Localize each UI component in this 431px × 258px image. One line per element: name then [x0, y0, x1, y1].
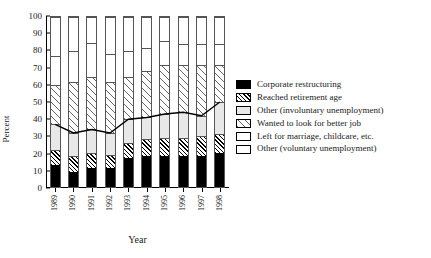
y-axis-tick-label: 90 — [33, 29, 46, 38]
bar-segment — [160, 156, 169, 187]
bar-slot: 1992 — [101, 16, 119, 188]
bar-group: 1989199019911992199319941995199619971998 — [46, 16, 229, 188]
legend-swatch-icon — [236, 132, 251, 141]
x-axis-tick-mark — [183, 188, 184, 192]
stacked-bar[interactable] — [86, 16, 97, 188]
bar-segment — [124, 158, 133, 187]
bar-segment — [69, 156, 78, 171]
y-axis-tick-label: 80 — [33, 46, 46, 55]
stacked-bar[interactable] — [159, 16, 170, 188]
bar-segment — [179, 17, 188, 44]
y-axis-tick-mark — [46, 102, 50, 103]
bar-segment — [124, 17, 133, 51]
bar-segment — [142, 139, 151, 156]
stacked-bar[interactable] — [68, 16, 79, 188]
x-axis-label: Year — [46, 234, 229, 245]
x-axis-tick-mark — [202, 188, 203, 192]
y-axis-tick-label: 60 — [33, 80, 46, 89]
y-axis-tick-mark — [46, 170, 50, 171]
bar-segment — [197, 156, 206, 187]
y-axis-tick-mark — [46, 153, 50, 154]
y-axis-tick-mark — [46, 50, 50, 51]
legend-item[interactable]: Left for marriage, childcare, etc. — [236, 132, 428, 142]
x-axis-tick-mark — [147, 188, 148, 192]
bar-segment — [124, 143, 133, 158]
bar-segment — [215, 102, 224, 134]
legend-swatch-icon — [236, 80, 251, 89]
bar-slot: 1995 — [156, 16, 174, 188]
x-axis-tick-label: 1989 — [51, 195, 59, 211]
bar-segment — [215, 134, 224, 153]
bar-segment — [87, 153, 96, 168]
y-axis-tick-label: 10 — [33, 166, 46, 175]
stacked-bar[interactable] — [123, 16, 134, 188]
x-axis-tick-label: 1991 — [88, 195, 96, 211]
x-axis-tick-mark — [220, 188, 221, 192]
x-axis-tick-mark — [110, 188, 111, 192]
stacked-bar[interactable] — [214, 16, 225, 188]
y-axis-tick-mark — [46, 136, 50, 137]
bar-segment — [215, 44, 224, 64]
legend-item[interactable]: Wanted to look for better job — [236, 119, 428, 129]
stacked-bar[interactable] — [105, 16, 116, 188]
legend-item-label: Left for marriage, childcare, etc. — [257, 132, 374, 142]
bar-slot: 1991 — [83, 16, 101, 188]
bar-segment — [197, 44, 206, 64]
x-axis-tick-mark — [128, 188, 129, 192]
y-axis-tick-label: 70 — [33, 63, 46, 72]
bar-segment — [51, 124, 60, 150]
y-axis-tick-mark — [46, 67, 50, 68]
y-axis-tick-mark — [46, 84, 50, 85]
y-axis-tick-label: 100 — [29, 12, 47, 21]
legend-swatch-icon — [236, 93, 251, 102]
legend-item-label: Other (involuntary unemployment) — [257, 106, 383, 116]
y-axis-tick-mark — [46, 16, 50, 17]
y-axis-label: Percent — [1, 116, 11, 143]
bar-segment — [142, 117, 151, 139]
x-axis-tick-label: 1992 — [106, 195, 114, 211]
bar-slot: 1990 — [64, 16, 82, 188]
legend-swatch-icon — [236, 119, 251, 128]
legend-item-label: Wanted to look for better job — [257, 119, 361, 129]
bar-segment — [160, 65, 169, 114]
stacked-bar[interactable] — [141, 16, 152, 188]
x-axis-tick-label: 1990 — [69, 195, 77, 211]
bar-segment — [160, 138, 169, 157]
legend-swatch-icon — [236, 145, 251, 154]
y-axis-tick-mark — [46, 188, 50, 189]
x-axis-tick-label: 1995 — [161, 195, 169, 211]
x-axis-tick-label: 1997 — [198, 195, 206, 211]
bar-segment — [142, 156, 151, 187]
bar-segment — [106, 155, 115, 169]
bar-segment — [106, 82, 115, 133]
x-axis-tick-mark — [55, 188, 56, 192]
y-axis-tick-label: 0 — [38, 184, 47, 193]
bar-segment — [124, 51, 133, 77]
bar-segment — [87, 168, 96, 187]
bar-segment — [106, 17, 115, 54]
bar-segment — [124, 119, 133, 143]
stacked-bar[interactable] — [50, 16, 61, 188]
y-axis-tick-label: 40 — [33, 115, 46, 124]
bar-segment — [179, 112, 188, 138]
legend-swatch-icon — [236, 106, 251, 115]
bar-segment — [106, 54, 115, 81]
bar-segment — [179, 44, 188, 64]
legend-item[interactable]: Reached retirement age — [236, 93, 428, 103]
y-axis-tick-mark — [46, 33, 50, 34]
bar-slot: 1996 — [174, 16, 192, 188]
stacked-bar[interactable] — [196, 16, 207, 188]
bar-segment — [87, 77, 96, 130]
legend-item[interactable]: Other (involuntary unemployment) — [236, 106, 428, 116]
bar-segment — [69, 172, 78, 187]
bar-segment — [106, 133, 115, 155]
bar-segment — [69, 82, 78, 133]
bar-segment — [160, 114, 169, 138]
stacked-bar[interactable] — [178, 16, 189, 188]
bar-segment — [160, 17, 169, 41]
bar-segment — [142, 17, 151, 48]
legend-item[interactable]: Corporate restructuring — [236, 80, 428, 90]
bar-segment — [215, 65, 224, 102]
bar-segment — [160, 41, 169, 65]
legend-item[interactable]: Other (voluntary unemployment) — [236, 144, 428, 154]
